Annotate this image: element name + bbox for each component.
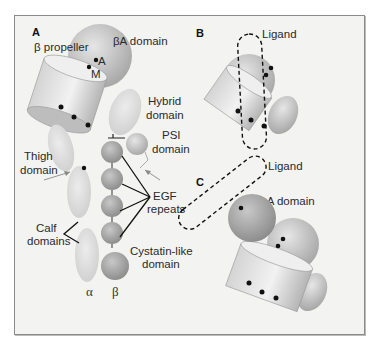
label-thigh-1: Thigh (24, 150, 53, 162)
mids-dot (59, 105, 64, 110)
label-egf-1: EGF (153, 190, 177, 202)
label-c-ligand: Ligand (268, 160, 303, 172)
label-hybrid-2: domain (146, 109, 184, 121)
panel-a: A β propeller βA domain A M (20, 24, 193, 299)
egf-pointer-lines (120, 156, 150, 237)
genu-dot (82, 166, 86, 170)
panel-label-c: C (196, 176, 204, 188)
label-cystatin-1: Cystatin-like (130, 245, 193, 257)
panel-label-a: A (32, 26, 40, 38)
alpha-a-domain-shape (228, 194, 276, 242)
label-thigh-2: domain (20, 164, 58, 176)
panel-c: C Ligand αA domain (174, 152, 333, 316)
label-psi-1: PSI (162, 129, 181, 141)
label-psi-2: domain (152, 143, 190, 155)
label-b-ligand: Ligand (262, 28, 297, 40)
psi-domain-shape (126, 133, 148, 155)
cystatin-like-domain-shape (101, 252, 129, 280)
label-hybrid-1: Hybrid (148, 95, 181, 107)
calf-1-domain-shape (67, 166, 91, 218)
hybrid-domain-shape (103, 84, 148, 139)
label-calf-1: Calf (36, 222, 57, 234)
label-calf-2: domains (27, 235, 71, 247)
label-cystatin-2: domain (142, 258, 180, 270)
calf-2-domain-shape (75, 228, 99, 282)
egf-2-shape (101, 168, 123, 190)
egf-4-shape (101, 222, 123, 244)
label-egf-2: repeats (147, 203, 186, 215)
psi-bracket (140, 152, 148, 168)
panel-label-b: B (196, 27, 204, 39)
label-site-m: M (91, 68, 101, 80)
integrin-diagram: A β propeller βA domain A M (0, 0, 376, 344)
egf-3-shape (101, 195, 123, 217)
mids-dot (72, 115, 77, 120)
mids-dot (86, 123, 91, 128)
label-beta-propeller: β propeller (34, 41, 89, 53)
label-beta-chain: β (112, 284, 119, 299)
egf-1-shape (101, 141, 123, 163)
label-alpha-chain: α (86, 284, 93, 299)
label-beta-a-domain: βA domain (113, 35, 168, 47)
label-site-a: A (98, 55, 106, 67)
panel-b: B Ligand (196, 27, 304, 150)
